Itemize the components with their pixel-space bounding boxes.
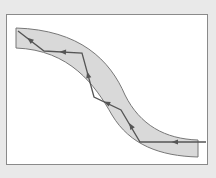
fiber-diagram — [0, 0, 216, 178]
optical-fiber — [16, 28, 198, 157]
